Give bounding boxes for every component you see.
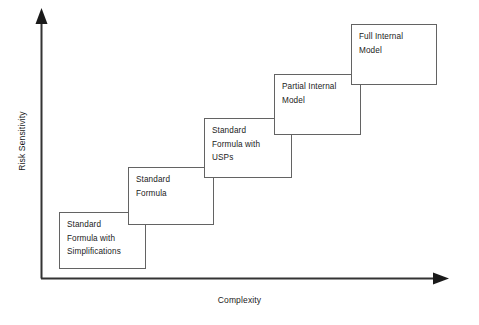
step-label-line: USPs xyxy=(212,153,233,162)
step-label-line: Formula with xyxy=(67,234,115,243)
step-label-line: Standard xyxy=(212,126,246,135)
step-box-partial-internal-model[interactable]: Partial Internal Model xyxy=(274,74,361,135)
step-box-label: Standard Formula xyxy=(136,173,209,200)
step-label-line: Formula xyxy=(136,189,167,198)
step-box-label: Full Internal Model xyxy=(359,30,432,57)
step-label-line: Simplifications xyxy=(67,247,121,256)
diagram-canvas: Risk Sensitivity Complexity Standard For… xyxy=(0,0,479,325)
step-box-full-internal-model[interactable]: Full Internal Model xyxy=(351,24,437,85)
step-label-line: Standard xyxy=(136,175,170,184)
step-box-label: Partial Internal Model xyxy=(282,80,356,107)
step-label-line: Model xyxy=(359,46,382,55)
y-axis-arrow-icon xyxy=(36,8,48,24)
step-label-line: Standard xyxy=(67,220,101,229)
x-axis-arrow-icon xyxy=(433,273,449,285)
step-label-line: Partial Internal xyxy=(282,82,336,91)
y-axis-label: Risk Sensitivity xyxy=(17,96,27,186)
step-label-line: Full Internal xyxy=(359,32,403,41)
x-axis-label: Complexity xyxy=(0,295,479,305)
step-box-standard-formula[interactable]: Standard Formula xyxy=(128,167,214,225)
step-label-line: Formula with xyxy=(212,140,260,149)
step-label-line: Model xyxy=(282,96,305,105)
